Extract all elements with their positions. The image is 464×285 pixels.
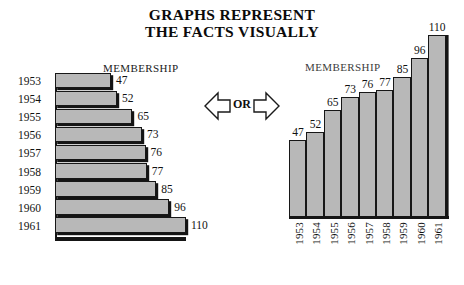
left-chart-row: 195565 — [18, 108, 193, 126]
left-chart-year-label: 1961 — [18, 218, 52, 234]
left-chart-year-label: 1957 — [18, 145, 52, 161]
left-chart-value-label: 47 — [116, 72, 128, 89]
left-chart-value-label: 65 — [137, 108, 149, 125]
right-chart-baseline — [289, 216, 449, 219]
left-chart-row: 195877 — [18, 163, 193, 181]
left-chart-bar — [55, 163, 147, 179]
right-chart-year-label: 1957 — [363, 222, 375, 245]
right-chart-year-label: 1954 — [310, 222, 322, 245]
left-chart-bar-wrap: 73 — [55, 126, 172, 144]
right-chart-bar — [341, 97, 358, 218]
right-chart-bar — [306, 132, 323, 219]
right-chart-year-label: 1955 — [328, 222, 340, 245]
right-chart-bar — [393, 77, 410, 218]
left-chart-bar — [55, 199, 169, 215]
right-chart-year-label: 1958 — [380, 222, 392, 245]
left-chart-row: 195985 — [18, 181, 193, 199]
right-chart-column: 76 — [359, 20, 376, 218]
right-chart-column: 96 — [411, 20, 428, 218]
or-label: OR — [203, 97, 281, 112]
left-chart-bar-wrap: 85 — [55, 181, 186, 199]
left-chart-bar — [55, 127, 142, 143]
left-chart-value-label: 96 — [174, 199, 186, 216]
right-chart-column: 110 — [428, 20, 445, 218]
left-chart-horizontal-bars: 1953471954521955651956731957761958771959… — [18, 72, 193, 242]
right-chart-column: 73 — [341, 20, 358, 218]
right-chart-bar — [376, 90, 393, 218]
left-chart-year-label: 1960 — [18, 200, 52, 216]
left-chart-year-label: 1955 — [18, 109, 52, 125]
left-chart-bar — [55, 145, 146, 161]
right-chart-bar — [324, 110, 341, 218]
right-chart-column: 77 — [376, 20, 393, 218]
left-chart-bar — [55, 181, 156, 197]
figure-root: GRAPHS REPRESENT THE FACTS VISUALLY MEMB… — [0, 0, 464, 285]
left-chart-bar — [55, 217, 186, 233]
left-chart-bar-wrap: 47 — [55, 72, 141, 90]
left-chart-bar — [55, 91, 117, 107]
left-chart-bar-wrap: 96 — [55, 199, 199, 217]
right-chart-column: 52 — [306, 20, 323, 218]
left-chart-value-label: 85 — [161, 181, 173, 198]
left-chart-value-label: 52 — [122, 90, 134, 107]
right-chart-year-label: 1959 — [397, 222, 409, 245]
left-chart-bar-wrap: 65 — [55, 108, 162, 126]
left-chart-row: 195347 — [18, 72, 193, 90]
right-chart-bar — [359, 92, 376, 218]
left-chart-bar-wrap: 76 — [55, 144, 176, 162]
left-chart-row: 196096 — [18, 199, 193, 217]
right-chart-bar — [428, 35, 445, 218]
right-chart-year-label: 1961 — [432, 222, 444, 245]
left-chart-bar — [55, 109, 132, 125]
or-connector: OR — [203, 88, 281, 124]
left-chart-bar-wrap: 110 — [55, 217, 216, 235]
left-chart-value-label: 76 — [151, 144, 163, 161]
left-chart-bar-wrap: 77 — [55, 163, 177, 181]
right-chart-year-label: 1953 — [293, 222, 305, 245]
right-chart-bar — [411, 58, 428, 218]
left-chart-year-label: 1956 — [18, 127, 52, 143]
left-chart-year-label: 1953 — [18, 73, 52, 89]
left-chart-year-label: 1959 — [18, 182, 52, 198]
left-chart-value-label: 110 — [191, 217, 208, 234]
right-chart-value-label: 110 — [426, 21, 448, 34]
left-chart-row: 1961110 — [18, 217, 193, 235]
left-chart-row: 195776 — [18, 144, 193, 162]
left-chart-bar — [55, 73, 111, 89]
right-chart-column: 65 — [324, 20, 341, 218]
left-chart-year-label: 1958 — [18, 164, 52, 180]
left-chart-row: 195673 — [18, 126, 193, 144]
right-chart-year-label: 1956 — [345, 222, 357, 245]
right-chart-bar — [289, 140, 306, 218]
left-chart-year-label: 1954 — [18, 91, 52, 107]
left-chart-row: 195452 — [18, 90, 193, 108]
left-chart-value-label: 73 — [147, 126, 159, 143]
left-chart-value-label: 77 — [152, 163, 164, 180]
right-chart-vertical-bars: 4752657376778596110 — [289, 18, 459, 218]
right-chart-year-label: 1960 — [415, 222, 427, 245]
left-chart-bar-wrap: 52 — [55, 90, 147, 108]
